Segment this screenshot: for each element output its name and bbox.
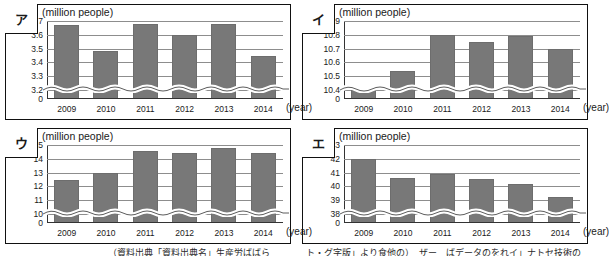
x-axis-unit-label: (year) bbox=[583, 226, 609, 237]
x-axis-line bbox=[47, 98, 283, 99]
chart-grid: ア(million people)3.73.63.53.43.33.202009… bbox=[0, 0, 594, 248]
x-axis-tick-label: 2014 bbox=[244, 104, 283, 114]
y-axis-tick-label: 12 bbox=[34, 182, 47, 191]
panel-tag: ア bbox=[5, 4, 38, 34]
x-axis-tick-label: 2011 bbox=[126, 228, 165, 238]
chart-panel-4: エ(million people)43424140393802009201020… bbox=[297, 124, 594, 248]
x-axis-tick-label: 2013 bbox=[204, 104, 243, 114]
y-axis-tick-label: 40 bbox=[331, 182, 344, 191]
plot-area: 3.73.63.53.43.33.20 bbox=[47, 21, 283, 99]
x-axis-tick-label: 2010 bbox=[86, 104, 125, 114]
x-axis-tick-label: 2012 bbox=[165, 104, 204, 114]
y-axis-tick-label: 11 bbox=[34, 196, 47, 205]
x-axis-tick-label: 2009 bbox=[47, 228, 86, 238]
y-axis-tick-label: 0 bbox=[38, 95, 47, 104]
y-axis-tick-label: 41 bbox=[331, 168, 344, 177]
x-axis-tick-labels: 200920102011201220132014 bbox=[47, 102, 283, 115]
x-axis-tick-label: 2010 bbox=[383, 104, 422, 114]
source-caption: （資料出典「資料出典名」生産労ばばら ト・グ字版」より食他の） ザー ばデータの… bbox=[0, 246, 594, 256]
x-axis-tick-label: 2012 bbox=[462, 104, 501, 114]
x-axis-tick-label: 2013 bbox=[501, 228, 540, 238]
x-axis-tick-label: 2012 bbox=[462, 228, 501, 238]
y-axis-tick-label: 3.4 bbox=[31, 58, 47, 67]
x-axis-tick-label: 2014 bbox=[541, 104, 580, 114]
plot-area: 1514131211100 bbox=[47, 145, 283, 223]
y-axis-unit-label: (million people) bbox=[339, 130, 410, 142]
chart-panel-3: ウ(million people)15141312111002009201020… bbox=[0, 124, 297, 248]
y-axis-tick-label: 0 bbox=[38, 219, 47, 228]
panel-tag: エ bbox=[302, 128, 335, 158]
chart-panel-2: イ(million people)10.910.810.710.610.510.… bbox=[297, 0, 594, 124]
x-axis-tick-label: 2009 bbox=[344, 228, 383, 238]
x-axis-tick-label: 2011 bbox=[423, 104, 462, 114]
y-axis-tick-label: 3.3 bbox=[31, 72, 47, 81]
axis-break-squiggle bbox=[340, 84, 586, 93]
x-axis-line bbox=[47, 222, 283, 223]
x-axis-tick-label: 2009 bbox=[344, 104, 383, 114]
x-axis-tick-labels: 200920102011201220132014 bbox=[47, 226, 283, 239]
axis-break-squiggle bbox=[43, 84, 289, 93]
y-axis-unit-label: (million people) bbox=[339, 6, 410, 18]
y-axis-tick-label: 10.6 bbox=[323, 58, 344, 67]
x-axis-tick-label: 2010 bbox=[86, 228, 125, 238]
y-axis-tick-label: 10.7 bbox=[323, 44, 344, 53]
x-axis-unit-label: (year) bbox=[583, 102, 609, 113]
y-axis-tick-label: 10.5 bbox=[323, 72, 344, 81]
axis-break-squiggle bbox=[43, 208, 289, 217]
bar bbox=[508, 184, 533, 223]
x-axis-tick-label: 2009 bbox=[47, 104, 86, 114]
x-axis-tick-label: 2012 bbox=[165, 228, 204, 238]
x-axis-tick-labels: 200920102011201220132014 bbox=[344, 226, 580, 239]
y-axis-tick-label: 0 bbox=[335, 219, 344, 228]
plot-area: 10.910.810.710.610.510.40 bbox=[344, 21, 580, 99]
panel-tag: イ bbox=[302, 4, 335, 34]
x-axis-tick-label: 2011 bbox=[126, 104, 165, 114]
x-axis-tick-label: 2014 bbox=[541, 228, 580, 238]
axis-break-squiggle bbox=[340, 208, 586, 217]
y-axis-unit-label: (million people) bbox=[42, 130, 113, 142]
x-axis-line bbox=[344, 98, 580, 99]
x-axis-tick-label: 2014 bbox=[244, 228, 283, 238]
y-axis-tick-label: 0 bbox=[335, 95, 344, 104]
x-axis-tick-label: 2010 bbox=[383, 228, 422, 238]
x-axis-tick-label: 2013 bbox=[501, 104, 540, 114]
x-axis-tick-label: 2011 bbox=[423, 228, 462, 238]
y-axis-tick-label: 39 bbox=[331, 196, 344, 205]
panel-tag: ウ bbox=[5, 128, 38, 158]
x-axis-line bbox=[344, 222, 580, 223]
source-caption-right: ト・グ字版」より食他の） ザー ばデータのをれイ」ナトセ技術の bbox=[306, 246, 581, 256]
source-caption-left: （資料出典「資料出典名」生産労ばばら bbox=[108, 246, 270, 256]
x-axis-tick-label: 2013 bbox=[204, 228, 243, 238]
x-axis-tick-labels: 200920102011201220132014 bbox=[344, 102, 580, 115]
chart-panel-1: ア(million people)3.73.63.53.43.33.202009… bbox=[0, 0, 297, 124]
y-axis-tick-label: 13 bbox=[34, 168, 47, 177]
y-axis-unit-label: (million people) bbox=[42, 6, 113, 18]
plot-area: 4342414039380 bbox=[344, 145, 580, 223]
y-axis-tick-label: 3.5 bbox=[31, 44, 47, 53]
